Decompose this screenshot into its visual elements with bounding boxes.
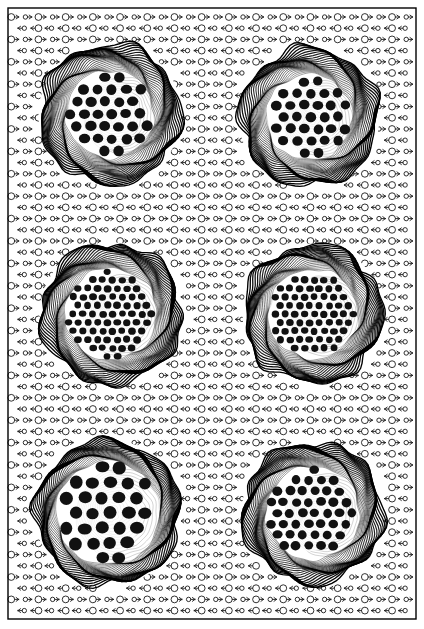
vector-field-figure	[0, 0, 424, 629]
figure-root: Vector field with six circular contour s…	[0, 0, 424, 629]
